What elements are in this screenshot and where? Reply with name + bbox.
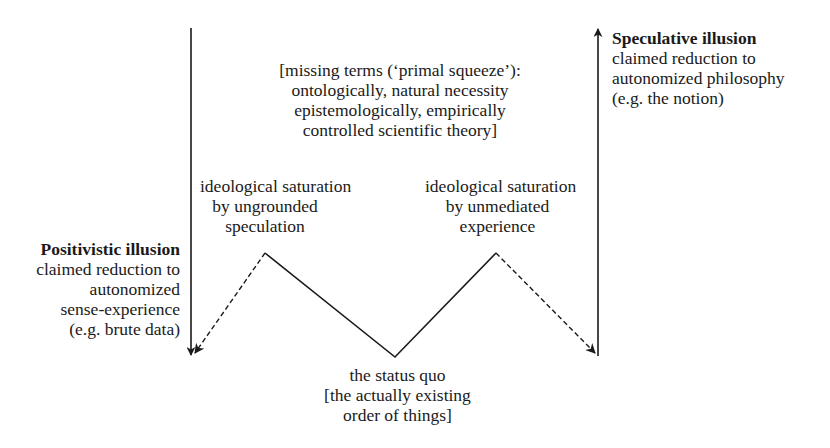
status-quo-zigzag	[265, 253, 496, 357]
dashed-arrow-left	[195, 253, 265, 353]
speculative-line: (e.g. the notion)	[612, 88, 830, 108]
saturation-right-line: ideological saturation	[425, 176, 570, 196]
positivistic-line: sense-experience	[0, 299, 180, 319]
speculative-illusion-label: Speculative illusion claimed reduction t…	[612, 28, 830, 108]
saturation-left-line: ideological saturation	[200, 176, 330, 196]
positivistic-line: (e.g. brute data)	[0, 319, 180, 339]
positivistic-line: claimed reduction to	[0, 259, 180, 279]
saturation-speculation-label: ideological saturation by ungrounded spe…	[200, 176, 330, 236]
missing-terms-line: controlled scientific theory]	[250, 120, 550, 140]
missing-terms-line: ontologically, natural necessity	[250, 80, 550, 100]
status-quo-line: the status quo	[310, 365, 485, 385]
missing-terms-line: [missing terms (‘primal squeeze’):	[250, 60, 550, 80]
saturation-left-line: by ungrounded	[200, 196, 330, 216]
status-quo-line: [the actually existing	[310, 385, 485, 405]
status-quo-label: the status quo [the actually existing or…	[310, 365, 485, 425]
saturation-right-line: by unmediated	[425, 196, 570, 216]
saturation-left-line: speculation	[200, 216, 330, 236]
speculative-line: claimed reduction to	[612, 48, 830, 68]
saturation-experience-label: ideological saturation by unmediated exp…	[425, 176, 570, 236]
speculative-title: Speculative illusion	[612, 28, 830, 48]
missing-terms-line: epistemologically, empirically	[250, 100, 550, 120]
status-quo-line: order of things]	[310, 405, 485, 425]
missing-terms-label: [missing terms (‘primal squeeze’): ontol…	[250, 60, 550, 140]
positivistic-line: autonomized	[0, 279, 180, 299]
speculative-line: autonomized philosophy	[612, 68, 830, 88]
positivistic-illusion-label: Positivistic illusion claimed reduction …	[0, 239, 180, 339]
dashed-arrow-right	[496, 253, 595, 353]
saturation-right-line: experience	[425, 216, 570, 236]
positivistic-title: Positivistic illusion	[0, 239, 180, 259]
